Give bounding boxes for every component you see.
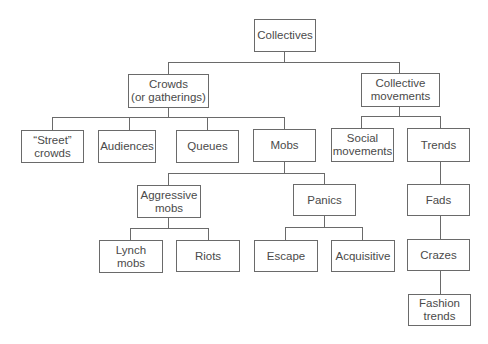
connector-to-riots (208, 228, 209, 240)
node-lynch-mobs: Lynch mobs (99, 240, 163, 273)
connector-to-acquisitive (362, 227, 363, 240)
connector-collective-movements-bar (361, 116, 441, 117)
node-queues: Queues (176, 130, 239, 163)
connector-crowds-bar (52, 117, 285, 118)
node-fashion-trends: Fashion trends (408, 294, 471, 326)
connector-collectives-bar (168, 62, 400, 63)
node-crowds: Crowds (or gatherings) (128, 74, 209, 108)
connector-to-escape (285, 227, 286, 240)
connector-to-lynch-mobs (130, 228, 131, 240)
node-mobs: Mobs (253, 129, 316, 162)
connector-to-panics (324, 173, 325, 184)
connector-mobs-bar (168, 173, 325, 174)
node-crazes: Crazes (407, 239, 470, 271)
node-collectives: Collectives (254, 19, 316, 52)
connector-crazes-to-fashion-trends (440, 271, 441, 294)
connector-to-queues (207, 117, 208, 130)
connector-to-aggressive-mobs (168, 173, 169, 185)
node-escape: Escape (254, 240, 318, 272)
connector-panics-bar (285, 227, 363, 228)
node-collective-movements: Collective movements (361, 73, 440, 107)
connector-aggressive-mobs-bar (130, 228, 209, 229)
node-audiences: Audiences (98, 130, 156, 163)
connector-to-social-movements (361, 116, 362, 128)
node-panics: Panics (293, 184, 356, 216)
connector-to-crowds (168, 62, 169, 74)
node-fads: Fads (407, 184, 470, 216)
connector-to-mobs (284, 117, 285, 129)
connector-to-street-crowds (52, 117, 53, 130)
node-aggressive-mobs: Aggressive mobs (137, 185, 201, 218)
node-riots: Riots (176, 240, 240, 272)
node-street-crowds: “Street” crowds (21, 130, 84, 163)
node-social-movements: Social movements (331, 128, 394, 162)
collectives-diagram: Collectives Crowds (or gatherings) Colle… (0, 0, 488, 344)
connector-to-audiences (129, 117, 130, 130)
connector-fads-to-crazes (440, 216, 441, 239)
connector-to-trends (440, 116, 441, 128)
node-acquisitive: Acquisitive (331, 240, 395, 272)
connector-to-collective-movements (399, 62, 400, 73)
node-trends: Trends (407, 128, 470, 162)
connector-trends-to-fads (440, 162, 441, 184)
